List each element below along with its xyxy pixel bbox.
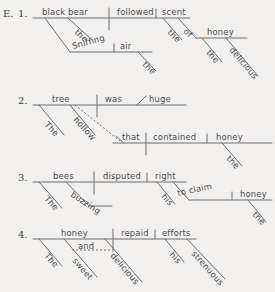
diagram-3-number: 3. (18, 172, 28, 183)
diagram-2: 2. tree was huge The hollow that contain… (18, 94, 272, 171)
d4-object: efforts (162, 228, 191, 238)
d2-subject-article: The (42, 119, 61, 138)
d1-prep-object-article: the (205, 48, 222, 65)
d1-participle-stem (45, 18, 70, 52)
diagram-1: E. 1. black bear followed scent the Snif… (3, 7, 260, 81)
d1-participle-object-article: the (141, 59, 158, 76)
diagram-1-number: 1. (18, 8, 28, 19)
d3-verb: disputed (103, 171, 141, 181)
d2-relative-object-article: the (225, 154, 242, 171)
d3-object: right (155, 171, 176, 181)
sentence-diagram-canvas: E. 1. black bear followed scent the Snif… (0, 0, 275, 292)
d3-subject-adj: buzzing (69, 189, 103, 216)
d2-relative-verb: contained (153, 132, 196, 142)
d3-object-modifier: his (160, 192, 176, 208)
exercise-letter: E. (3, 8, 13, 19)
d2-predicate-adjective-slant (137, 96, 146, 105)
diagram-4-number: 4. (18, 229, 28, 240)
d1-object-article: the (166, 27, 183, 44)
d4-conjunction: and (78, 241, 94, 251)
d1-preposition: of (182, 26, 196, 40)
d3-subject: bees (53, 171, 74, 181)
d1-object: scent (162, 7, 186, 17)
d1-prep-object-adj: delicious (227, 45, 260, 81)
d1-verb: followed (117, 7, 154, 17)
d2-subject-adj: hollow (72, 115, 98, 143)
d1-participle-object: air (120, 41, 132, 51)
d3-subject-article: The (42, 193, 61, 212)
d4-subject-adj-1: sweet (70, 256, 95, 282)
d4-subject-article: The (42, 250, 61, 269)
d4-object-adj: strenuous (190, 249, 226, 288)
d4-subject-adj-2: delicious (108, 251, 141, 287)
d4-verb: repaid (121, 228, 149, 238)
d2-subject: tree (52, 94, 70, 104)
diagram-4: 4. honey repaid efforts The sweet delici… (18, 228, 226, 288)
d3-infinitive-object-article: the (251, 210, 268, 227)
d4-object-modifier: his (168, 250, 184, 266)
d1-prep-object: honey (207, 27, 234, 37)
diagram-3: 3. bees disputed right The buzzing his t… (18, 171, 272, 227)
d3-infinitive-object: honey (240, 189, 267, 199)
d2-relative-subject: that (122, 132, 140, 142)
d3-infinitive: to claim (176, 181, 213, 198)
d2-predicate-adjective: huge (149, 94, 171, 104)
worksheet-page: E. 1. black bear followed scent the Snif… (0, 0, 275, 292)
d2-verb: was (105, 94, 122, 104)
d2-relative-object: honey (216, 132, 243, 142)
diagram-2-number: 2. (18, 95, 28, 106)
d1-subject: black bear (42, 7, 88, 17)
d4-subject: honey (61, 228, 88, 238)
